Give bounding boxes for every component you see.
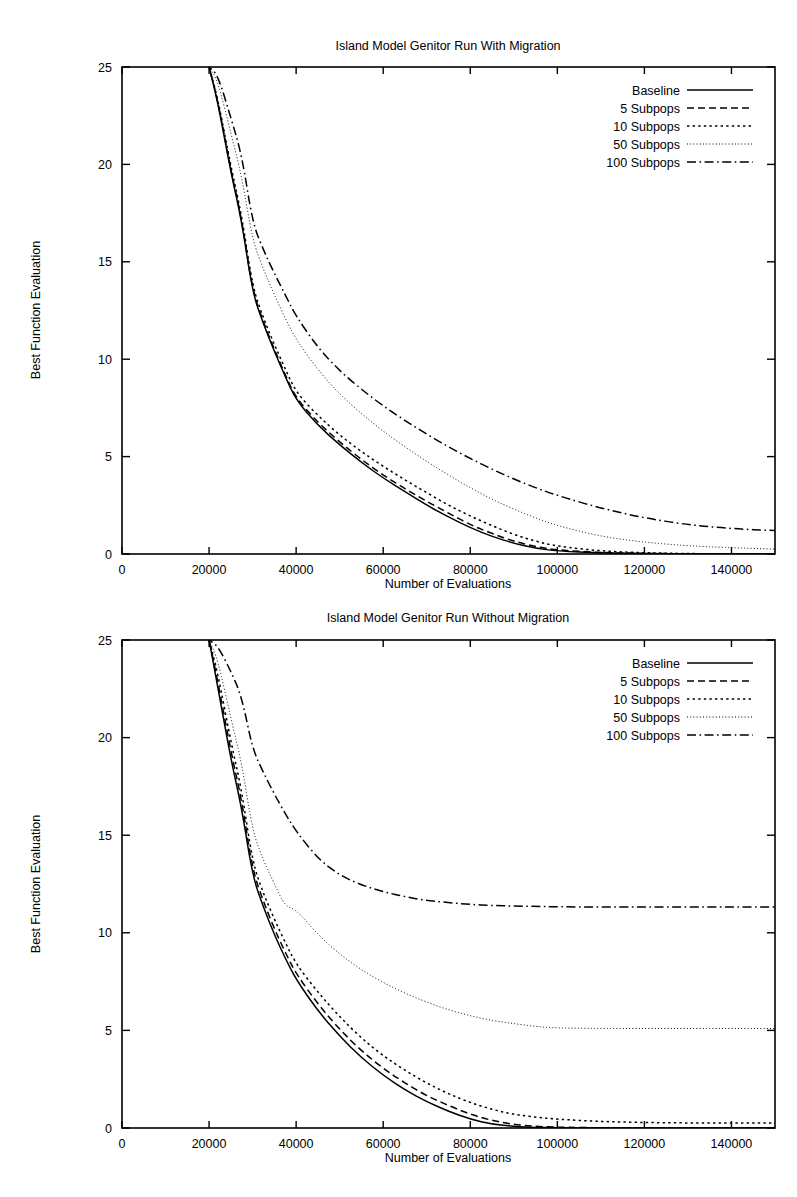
series-line-baseline xyxy=(205,51,775,554)
series-line-100-subpops xyxy=(205,637,775,907)
x-tick-label: 20000 xyxy=(192,1137,227,1151)
chart-2-title: Island Model Genitor Run Without Migrati… xyxy=(327,611,570,625)
x-tick-label: 80000 xyxy=(453,1137,488,1151)
y-tick-label: 10 xyxy=(98,353,112,367)
chart-1-series-group xyxy=(205,51,775,554)
chart-1-y-axis-label: Best Function Evaluation xyxy=(29,241,43,379)
x-tick-label: 60000 xyxy=(366,563,401,577)
legend-label-baseline: Baseline xyxy=(632,657,680,671)
chart-2-x-tick-labels: 020000400006000080000100000120000140000 xyxy=(119,1137,753,1151)
y-tick-label: 20 xyxy=(98,158,112,172)
chart-1-x-tick-labels: 020000400006000080000100000120000140000 xyxy=(119,563,753,577)
chart-1-x-axis-label: Number of Evaluations xyxy=(385,577,511,591)
chart-2-y-axis-label: Best Function Evaluation xyxy=(29,815,43,953)
x-tick-label: 80000 xyxy=(453,563,488,577)
x-tick-label: 0 xyxy=(119,1137,126,1151)
chart-2-svg: Island Model Genitor Run Without Migrati… xyxy=(0,597,797,1197)
y-tick-label: 5 xyxy=(105,1024,112,1038)
series-line-100-subpops xyxy=(205,63,775,530)
y-tick-label: 15 xyxy=(98,255,112,269)
series-line-baseline xyxy=(205,619,775,1128)
chart-1-svg: Island Model Genitor Run With Migration … xyxy=(0,0,797,600)
x-tick-label: 20000 xyxy=(192,563,227,577)
legend-label-100-subpops: 100 Subpops xyxy=(606,156,680,170)
legend-label-baseline: Baseline xyxy=(632,84,680,98)
x-tick-label: 140000 xyxy=(711,563,753,577)
y-tick-label: 10 xyxy=(98,926,112,940)
series-line-10-subpops xyxy=(205,625,775,1123)
x-tick-label: 120000 xyxy=(624,1137,666,1151)
chart-2-legend: Baseline5 Subpops10 Subpops50 Subpops100… xyxy=(606,657,753,743)
x-tick-label: 40000 xyxy=(279,563,314,577)
chart-with-migration: Island Model Genitor Run With Migration … xyxy=(0,0,797,600)
y-tick-label: 20 xyxy=(98,731,112,745)
chart-1-title: Island Model Genitor Run With Migration xyxy=(335,39,560,53)
legend-label-50-subpops: 50 Subpops xyxy=(613,138,680,152)
chart-2-x-axis-label: Number of Evaluations xyxy=(385,1151,511,1165)
y-tick-label: 25 xyxy=(98,634,112,648)
legend-label-50-subpops: 50 Subpops xyxy=(613,711,680,725)
y-tick-label: 25 xyxy=(98,61,112,75)
chart-2-series-group xyxy=(205,619,775,1128)
legend-label-10-subpops: 10 Subpops xyxy=(613,120,680,134)
legend-label-100-subpops: 100 Subpops xyxy=(606,729,680,743)
legend-label-10-subpops: 10 Subpops xyxy=(613,693,680,707)
y-tick-label: 15 xyxy=(98,829,112,843)
legend-label-5-subpops: 5 Subpops xyxy=(620,675,680,689)
x-tick-label: 100000 xyxy=(536,563,578,577)
y-tick-label: 0 xyxy=(105,548,112,562)
chart-1-y-tick-labels: 0510152025 xyxy=(98,61,112,562)
figure-page: Island Model Genitor Run With Migration … xyxy=(0,0,797,1197)
series-line-5-subpops xyxy=(205,622,775,1128)
chart-without-migration: Island Model Genitor Run Without Migrati… xyxy=(0,597,797,1197)
y-tick-label: 5 xyxy=(105,450,112,464)
x-tick-label: 0 xyxy=(119,563,126,577)
x-tick-label: 120000 xyxy=(624,563,666,577)
x-tick-label: 60000 xyxy=(366,1137,401,1151)
series-line-10-subpops xyxy=(205,53,775,554)
x-tick-label: 100000 xyxy=(536,1137,578,1151)
x-tick-label: 40000 xyxy=(279,1137,314,1151)
legend-label-5-subpops: 5 Subpops xyxy=(620,102,680,116)
chart-2-y-tick-labels: 0510152025 xyxy=(98,634,112,1136)
series-line-5-subpops xyxy=(205,52,775,554)
y-tick-label: 0 xyxy=(105,1122,112,1136)
chart-1-legend: Baseline5 Subpops10 Subpops50 Subpops100… xyxy=(606,84,753,170)
x-tick-label: 140000 xyxy=(711,1137,753,1151)
